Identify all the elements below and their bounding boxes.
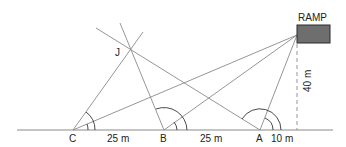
angle-arc-b-inner [174, 122, 177, 130]
point-b-label: B [160, 133, 167, 144]
ramp-label: RAMP [298, 12, 327, 23]
ramp-box [297, 25, 330, 43]
point-j-label: J [115, 47, 120, 58]
line-b-j [120, 23, 164, 130]
angle-arc-a-inner [265, 118, 273, 130]
point-a-label: A [256, 133, 263, 144]
point-c-label: C [69, 133, 76, 144]
distance-a-foot-label: 10 m [271, 133, 293, 144]
ramp-geometry-diagram: RAMP J C 25 m B 25 m A 10 m 40 m [0, 0, 346, 147]
angle-arc-c-outer [86, 112, 95, 130]
height-label: 40 m [302, 70, 313, 92]
angle-arc-c-inner [87, 124, 88, 130]
distance-c-b-label: 25 m [107, 133, 129, 144]
sightline-a-ramp [260, 35, 297, 130]
distance-b-a-label: 25 m [200, 133, 222, 144]
angle-arc-b-outer [156, 108, 187, 130]
